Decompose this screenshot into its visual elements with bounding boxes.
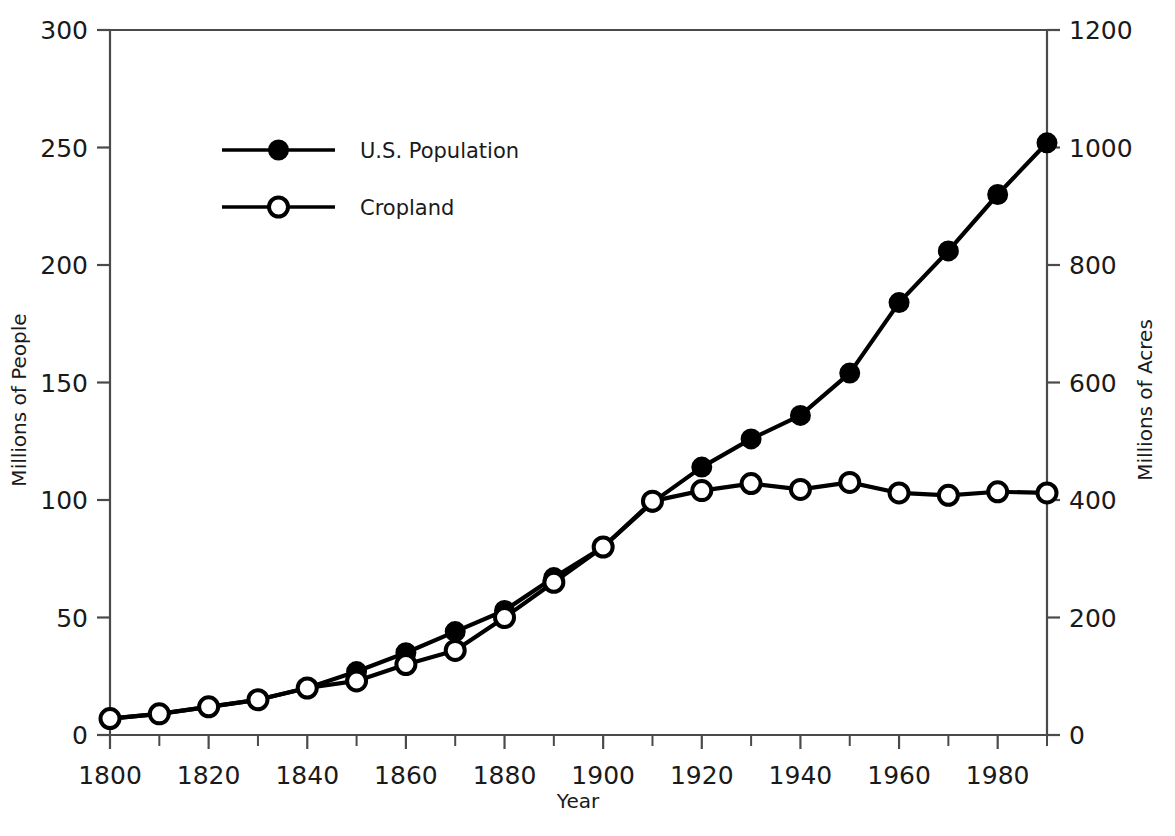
data-point-marker [692, 458, 711, 477]
x-axis-title: Year [556, 789, 600, 813]
left-axis-tick-label: 100 [40, 486, 88, 515]
data-point-marker [298, 679, 317, 698]
chart-figure: 050100150200250300 020040060080010001200… [0, 0, 1175, 836]
x-axis-tick-label: 1840 [275, 761, 339, 790]
legend-item-label: U.S. Population [360, 139, 519, 163]
left-axis-tick-label: 250 [40, 134, 88, 163]
data-point-marker [150, 704, 169, 723]
left-axis-tick-label: 150 [40, 369, 88, 398]
data-point-marker [890, 293, 909, 312]
x-axis-tick-label: 1900 [571, 761, 635, 790]
data-point-marker [742, 429, 761, 448]
x-axis-tick-label: 1980 [966, 761, 1030, 790]
data-point-marker [248, 690, 267, 709]
data-point-marker [495, 608, 514, 627]
data-point-marker [396, 655, 415, 674]
data-point-marker [988, 482, 1007, 501]
data-point-marker [643, 492, 662, 511]
right-axis-tick-label: 1200 [1069, 16, 1133, 45]
data-point-marker [199, 697, 218, 716]
legend-item-label: Cropland [360, 196, 454, 220]
data-point-marker [446, 641, 465, 660]
x-axis-tick-label: 1860 [374, 761, 438, 790]
data-point-marker [692, 481, 711, 500]
data-point-marker [791, 480, 810, 499]
right-axis-title: Millions of Acres [1133, 319, 1157, 481]
left-axis-tick-label: 300 [40, 16, 88, 45]
left-axis-tick-label: 50 [56, 604, 88, 633]
dual-axis-line-chart: 050100150200250300 020040060080010001200… [0, 0, 1175, 836]
right-axis-tick-label: 1000 [1069, 134, 1133, 163]
data-point-marker [890, 483, 909, 502]
right-axis-tick-label: 400 [1069, 486, 1117, 515]
legend-marker-open-circle-icon [269, 198, 288, 217]
x-axis-tick-label: 1940 [769, 761, 833, 790]
data-point-marker [939, 486, 958, 505]
left-axis-tick-label: 0 [72, 721, 88, 750]
legend-marker-filled-circle-icon [269, 141, 288, 160]
x-axis-tick-label: 1920 [670, 761, 734, 790]
data-point-marker [594, 538, 613, 557]
x-axis-tick-label: 1800 [78, 761, 142, 790]
data-point-marker [840, 364, 859, 383]
data-point-marker [347, 671, 366, 690]
left-axis-tick-label: 200 [40, 251, 88, 280]
data-point-marker [939, 241, 958, 260]
right-axis-tick-label: 0 [1069, 721, 1085, 750]
x-axis-tick-label: 1960 [867, 761, 931, 790]
x-axis-tick-label: 1820 [177, 761, 241, 790]
data-point-marker [101, 709, 120, 728]
data-point-marker [840, 473, 859, 492]
x-axis-tick-label: 1880 [473, 761, 537, 790]
data-point-marker [446, 622, 465, 641]
right-axis-tick-label: 600 [1069, 369, 1117, 398]
data-point-marker [791, 406, 810, 425]
right-axis-tick-label: 800 [1069, 251, 1117, 280]
data-point-marker [742, 474, 761, 493]
right-axis-tick-label: 200 [1069, 604, 1117, 633]
data-point-marker [1038, 133, 1057, 152]
left-axis-title: Millions of People [7, 313, 31, 486]
data-point-marker [988, 185, 1007, 204]
data-point-marker [544, 573, 563, 592]
data-point-marker [1038, 483, 1057, 502]
